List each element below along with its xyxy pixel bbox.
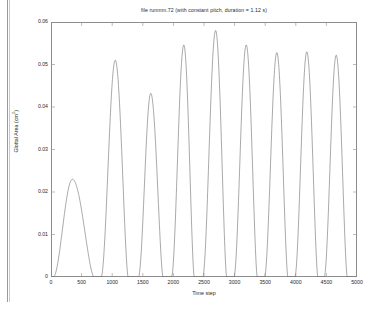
y-axis-label-exponent: 2 bbox=[12, 112, 16, 114]
x-tick-label: 3000 bbox=[229, 280, 241, 285]
x-tick-label: 4500 bbox=[321, 280, 333, 285]
y-axis-label-tail: ) bbox=[13, 110, 19, 112]
y-tick-label: 0 bbox=[45, 274, 48, 279]
x-tick-label: 4000 bbox=[290, 280, 302, 285]
y-axis-label-text: Glottal Area (cm bbox=[13, 114, 19, 153]
figure-left-border bbox=[7, 0, 8, 302]
y-tick-label: 0.03 bbox=[38, 147, 48, 152]
x-tick-label: 0 bbox=[50, 280, 53, 285]
x-axis-tick-labels: 0500100015002000250030003500400045005000 bbox=[51, 280, 357, 290]
plot-svg bbox=[51, 22, 357, 277]
y-axis-tick-labels: 00.010.020.030.040.050.06 bbox=[24, 22, 48, 277]
x-axis-label: Time step bbox=[51, 290, 357, 296]
x-tick-label: 2000 bbox=[168, 280, 180, 285]
y-tick-label: 0.01 bbox=[38, 232, 48, 237]
x-tick-label: 2500 bbox=[198, 280, 210, 285]
x-tick-label: 3500 bbox=[259, 280, 271, 285]
y-tick-label: 0.06 bbox=[38, 19, 48, 24]
chart-title: file runmm.72 (with constant pitch, dura… bbox=[51, 7, 357, 13]
y-tick-label: 0.02 bbox=[38, 189, 48, 194]
x-tick-label: 1500 bbox=[137, 280, 149, 285]
y-tick-label: 0.05 bbox=[38, 62, 48, 67]
x-tick-label: 500 bbox=[77, 280, 86, 285]
figure-canvas: file runmm.72 (with constant pitch, dura… bbox=[0, 0, 380, 315]
glottal-area-curve bbox=[51, 31, 357, 277]
figure-left-border-shadow bbox=[9, 0, 10, 302]
plot-area[interactable] bbox=[51, 22, 357, 277]
x-tick-label: 5000 bbox=[351, 280, 363, 285]
y-tick-label: 0.04 bbox=[38, 104, 48, 109]
x-tick-label: 1000 bbox=[106, 280, 118, 285]
axis-tick-marks bbox=[51, 22, 357, 277]
y-axis-label: Glottal Area (cm2) bbox=[12, 110, 19, 153]
